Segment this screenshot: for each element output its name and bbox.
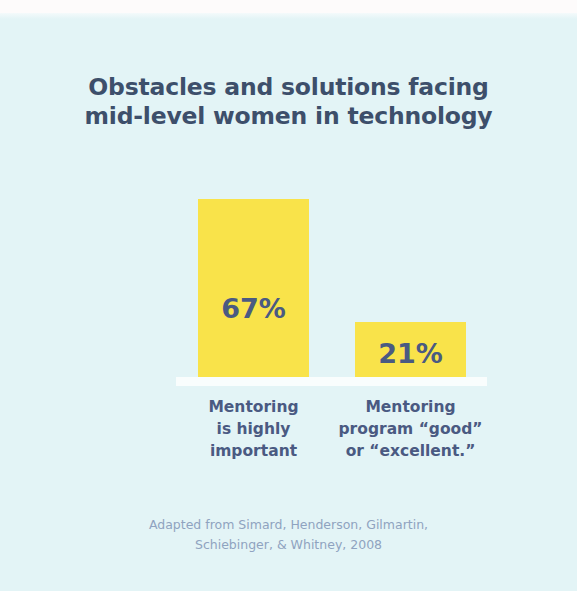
chart-baseline	[176, 377, 487, 386]
category-label-1: Mentoring is highly important	[183, 396, 324, 462]
bar-mentoring-is-highly-important[interactable]	[198, 199, 309, 377]
bar-value-label-1: 67%	[198, 294, 309, 324]
category-label-1-line-1: Mentoring	[183, 396, 324, 418]
bar-group-1: 67%	[198, 199, 309, 377]
category-label-1-line-3: important	[183, 440, 324, 462]
bar-group-2: 21%	[355, 322, 466, 377]
category-label-2-line-3: or “excellent.”	[331, 440, 490, 462]
source-citation-line-1: Adapted from Simard, Henderson, Gilmarti…	[0, 515, 577, 535]
category-label-2: Mentoring program “good” or “excellent.”	[331, 396, 490, 462]
category-label-1-line-2: is highly	[183, 418, 324, 440]
bar-value-label-2: 21%	[355, 339, 466, 369]
category-label-2-line-2: program “good”	[331, 418, 490, 440]
slide-canvas: Obstacles and solutions facing mid-level…	[0, 0, 577, 591]
source-citation: Adapted from Simard, Henderson, Gilmarti…	[0, 515, 577, 555]
bar-chart-plot-area: 67% 21% Mentoring is highly important Me…	[0, 0, 577, 591]
category-label-2-line-1: Mentoring	[331, 396, 490, 418]
source-citation-line-2: Schiebinger, & Whitney, 2008	[0, 535, 577, 555]
